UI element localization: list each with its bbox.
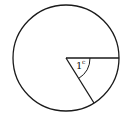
angle-label-unit: c [82, 58, 86, 65]
radian-diagram: 1 c [0, 0, 130, 115]
